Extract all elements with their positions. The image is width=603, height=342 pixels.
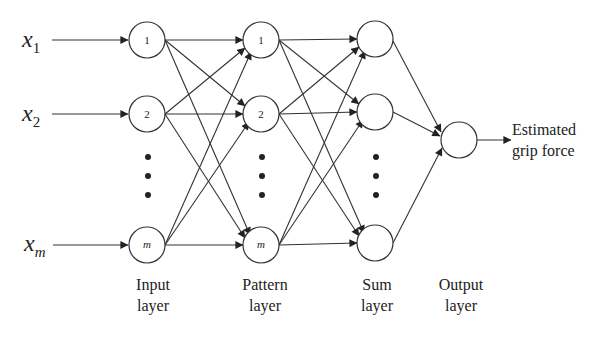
pattern-to-sum-edges xyxy=(279,39,365,245)
input-layer: 1 2 m xyxy=(129,22,165,263)
output-label-line1: Estimated xyxy=(512,121,576,138)
sum-layer-label-line1: Sum xyxy=(362,276,392,293)
sum-layer-label-line2: layer xyxy=(361,297,394,315)
input-xm-label: xm xyxy=(23,230,46,260)
sum-ellipsis-dots xyxy=(373,154,379,198)
input-arrows xyxy=(52,40,128,245)
input-node-2-label: 2 xyxy=(144,108,150,120)
pattern-layer-label-line2: layer xyxy=(249,297,282,315)
pnn-architecture-diagram: x1 x2 xm 1 2 m 1 2 m xyxy=(0,0,603,342)
output-node xyxy=(441,122,477,158)
output-layer-label-line2: layer xyxy=(445,297,478,315)
input-x2-label: x2 xyxy=(21,100,40,130)
pattern-node-m-label: m xyxy=(257,238,265,250)
output-layer-label-line1: Output xyxy=(439,276,484,294)
sum-node-3 xyxy=(357,225,393,261)
sum-node-2 xyxy=(357,94,393,130)
output-label: Estimated grip force xyxy=(512,121,576,160)
pattern-ellipsis-dots xyxy=(259,154,265,198)
input-layer-label-line2: layer xyxy=(137,297,170,315)
input-labels: x1 x2 xm xyxy=(21,26,46,260)
sum-node-1 xyxy=(357,21,393,57)
output-label-line2: grip force xyxy=(512,142,575,160)
output-layer xyxy=(441,122,477,158)
pattern-node-1-label: 1 xyxy=(258,34,264,46)
input-node-m-label: m xyxy=(143,238,151,250)
input-layer-label-line1: Input xyxy=(136,276,170,294)
input-to-pattern-edges xyxy=(165,40,251,245)
layer-labels: Input layer Pattern layer Sum layer Outp… xyxy=(136,276,484,315)
pattern-layer-label-line1: Pattern xyxy=(242,276,287,293)
input-ellipsis-dots xyxy=(145,154,151,198)
input-node-1-label: 1 xyxy=(144,34,150,46)
input-x1-label: x1 xyxy=(21,26,40,56)
pattern-node-2-label: 2 xyxy=(258,108,264,120)
